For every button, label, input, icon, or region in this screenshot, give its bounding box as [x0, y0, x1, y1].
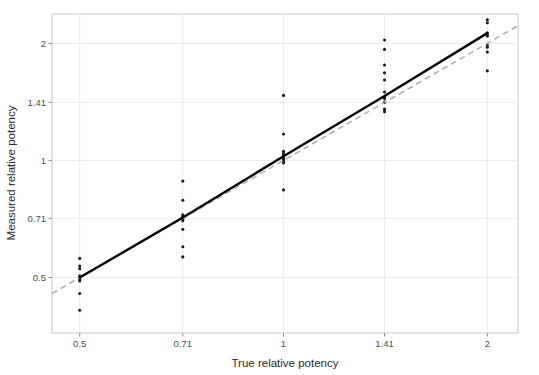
x-tick-label-1: 1 [281, 338, 286, 349]
data-point [383, 63, 386, 66]
scatter-plot-svg: 0.50.7111.412 0.50.7111.412 True relativ… [0, 0, 539, 375]
data-point [78, 257, 81, 260]
plot-panel [52, 14, 518, 333]
x-tick-label-1.41: 1.41 [375, 338, 394, 349]
data-point [486, 50, 489, 53]
data-point [78, 279, 81, 282]
data-point [383, 38, 386, 41]
data-point [383, 48, 386, 51]
y-tick-label-1: 1 [41, 155, 46, 166]
data-point [181, 228, 184, 231]
data-point [486, 18, 489, 21]
y-axis-title: Measured relative potency [5, 105, 17, 240]
x-tick-label-2: 2 [485, 338, 490, 349]
data-point [78, 292, 81, 295]
data-point [181, 180, 184, 183]
x-tick-label-0.5: 0.5 [73, 338, 86, 349]
x-axis-title: True relative potency [232, 357, 339, 369]
data-point [282, 188, 285, 191]
data-point [383, 71, 386, 74]
y-tick-label-0.5: 0.5 [33, 272, 46, 283]
data-point [181, 245, 184, 248]
x-tick-label-0.71: 0.71 [174, 338, 193, 349]
data-point [78, 309, 81, 312]
data-point [282, 94, 285, 97]
data-point [181, 255, 184, 258]
chart-figure: 0.50.7111.412 0.50.7111.412 True relativ… [0, 0, 539, 375]
data-point [486, 21, 489, 24]
panel-background [52, 14, 518, 333]
data-point [78, 267, 81, 270]
y-tick-label-1.41: 1.41 [28, 97, 47, 108]
data-point [181, 199, 184, 202]
data-point [486, 69, 489, 72]
data-point [181, 219, 184, 222]
data-point [383, 110, 386, 113]
data-point [383, 78, 386, 81]
y-tick-label-0.71: 0.71 [28, 213, 47, 224]
data-point [486, 46, 489, 49]
data-point [383, 90, 386, 93]
y-tick-label-2: 2 [41, 38, 46, 49]
data-point [282, 132, 285, 135]
